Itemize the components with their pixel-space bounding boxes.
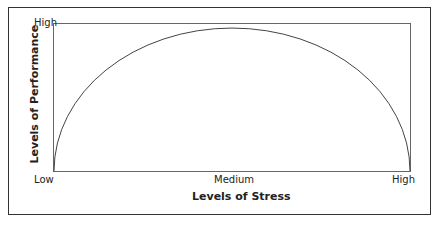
x-tick-high: High <box>392 174 415 185</box>
performance-curve <box>54 28 410 171</box>
y-axis-title: Levels of Performance <box>28 30 41 164</box>
plot-box <box>54 24 411 172</box>
x-tick-medium: Medium <box>214 174 254 185</box>
x-tick-low: Low <box>34 174 54 185</box>
x-axis-title: Levels of Stress <box>192 190 291 203</box>
